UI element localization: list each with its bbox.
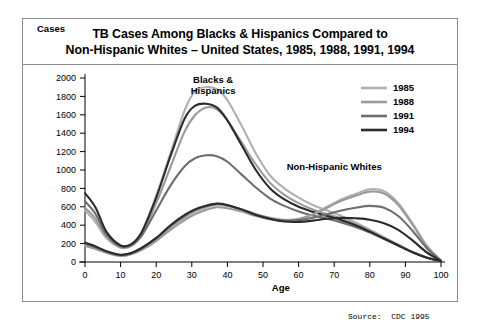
x-axis-title: Age [272,282,290,293]
svg-text:400: 400 [61,220,76,230]
svg-text:800: 800 [61,184,76,194]
svg-text:30: 30 [187,270,197,280]
svg-text:1400: 1400 [56,128,76,138]
series-line-1994-blacks-hispanics [85,104,441,262]
svg-text:1800: 1800 [56,92,76,102]
svg-text:70: 70 [329,270,339,280]
annotation-blacks-hispanics: Blacks & [193,74,233,85]
chart-title-block: TB Cases Among Blacks & Hispanics Compar… [23,19,457,65]
source-note: Source: CDC 1995 [348,312,430,321]
y-axis-title: Cases [37,23,65,34]
svg-text:90: 90 [400,270,410,280]
y-axis-ticks: 0200400600800100012001400160018002000 [56,73,85,267]
svg-text:80: 80 [365,270,375,280]
x-axis-ticks: 0102030405060708090100 [82,262,448,280]
svg-text:100: 100 [433,270,448,280]
annotation-blacks-hispanics: Hispanics [191,85,236,96]
chart-title-line-2: Non-Hispanic Whites – United States, 198… [29,42,451,58]
svg-text:50: 50 [258,270,268,280]
svg-text:200: 200 [61,239,76,249]
figure-frame: TB Cases Among Blacks & Hispanics Compar… [22,18,458,302]
svg-text:10: 10 [116,270,126,280]
svg-text:2000: 2000 [56,73,76,83]
svg-text:0: 0 [82,270,87,280]
data-series-group [85,87,441,261]
svg-text:20: 20 [151,270,161,280]
legend-label-1994: 1994 [393,124,415,135]
svg-text:1600: 1600 [56,110,76,120]
line-chart-svg: 0200400600800100012001400160018002000 01… [23,66,459,302]
svg-text:1000: 1000 [56,165,76,175]
svg-text:1200: 1200 [56,147,76,157]
svg-text:40: 40 [222,270,232,280]
annotation-non-hispanic-whites: Non-Hispanic Whites [287,161,382,172]
plot-area: 0200400600800100012001400160018002000 01… [23,66,459,302]
chart-title-line-1: TB Cases Among Blacks & Hispanics Compar… [29,26,451,42]
svg-text:600: 600 [61,202,76,212]
chart-legend: 1985198819911994 [361,82,415,135]
legend-label-1991: 1991 [393,110,415,121]
legend-label-1985: 1985 [393,82,415,93]
svg-text:60: 60 [294,270,304,280]
svg-text:0: 0 [71,257,76,267]
legend-label-1988: 1988 [393,96,414,107]
